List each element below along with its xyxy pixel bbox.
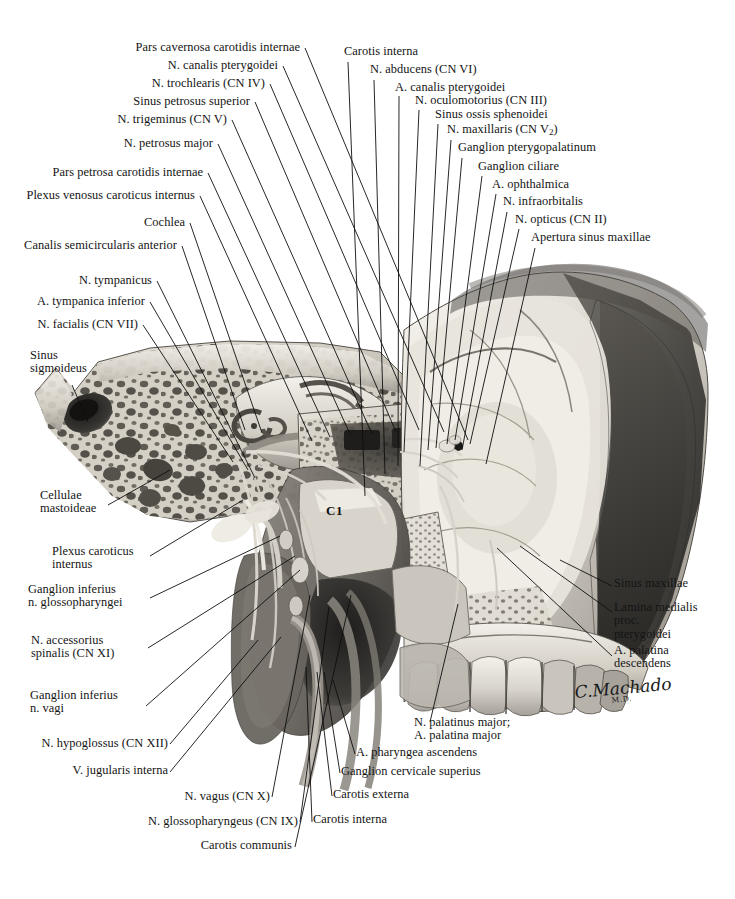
anatomy-label: N. canalis pterygoidei <box>168 59 278 72</box>
anatomy-label: Carotis interna <box>344 45 418 58</box>
anatomy-label-text: Sinus ossis sphenoidei <box>435 107 548 121</box>
anatomy-label-line: Ganglion inferius <box>28 583 123 596</box>
anatomy-label-line: Carotis externa <box>333 788 409 801</box>
anatomy-label: Sinus maxillae <box>614 577 688 590</box>
anatomy-label: Plexus caroticusinternus <box>52 545 134 572</box>
anatomy-label: Ganglion inferiusn. glossopharyngei <box>28 583 123 610</box>
anatomy-label-text: Plexus venosus caroticus internus <box>26 188 195 202</box>
anatomy-label: Cellulaemastoideae <box>40 489 96 516</box>
anatomy-label: Plexus venosus caroticus internus <box>26 189 195 202</box>
anatomy-label-text: N. glossopharyngeus (CN IX) <box>148 814 298 828</box>
anatomy-label: Lamina medialisproc.pterygoidei <box>614 601 698 641</box>
anatomy-label-text: N. opticus (CN II) <box>515 212 607 226</box>
anatomy-label: N. maxillaris (CN V2) <box>447 123 558 139</box>
anatomy-label: N. vagus (CN X) <box>185 790 270 803</box>
anatomy-label: N. oculomotorius (CN III) <box>415 94 547 107</box>
anatomy-label: N. facialis (CN VII) <box>37 318 138 331</box>
anatomy-label: Ganglion pterygopalatinum <box>458 141 596 154</box>
anatomy-label-line: Lamina medialis <box>614 601 698 614</box>
anatomy-label-text: Pars petrosa carotidis internae <box>52 165 203 179</box>
anatomy-label: Carotis interna <box>313 813 387 826</box>
anatomy-label-line: pterygoidei <box>614 628 698 641</box>
anatomy-label-text: N. trigeminus (CN V) <box>117 112 227 126</box>
anatomy-label-line: mastoideae <box>40 502 96 515</box>
anatomy-label-line: n. glossopharyngei <box>28 596 123 609</box>
anatomy-label-text: N. oculomotorius (CN III) <box>415 93 547 107</box>
anatomy-label: Canalis semicircularis anterior <box>24 239 177 252</box>
anatomy-label-text: N. petrosus major <box>124 136 213 150</box>
anatomy-label: N. accessoriusspinalis (CN XI) <box>31 634 114 661</box>
anatomy-label: Sinus petrosus superior <box>133 95 250 108</box>
anatomy-label-text: N. facialis (CN VII) <box>37 317 138 331</box>
anatomy-label-line: Ganglion cervicale superius <box>341 765 481 778</box>
anatomy-label-line: descendens <box>614 657 671 670</box>
anatomy-label-text: Sinus petrosus superior <box>133 94 250 108</box>
anatomy-label: Ganglion cervicale superius <box>341 765 481 778</box>
anatomy-label-line: proc. <box>614 614 698 627</box>
anatomy-label: Apertura sinus maxillae <box>531 231 651 244</box>
anatomy-label: N. tympanicus <box>79 274 152 287</box>
anatomy-label: N. petrosus major <box>124 137 213 150</box>
anatomy-label: A. tympanica inferior <box>37 295 145 308</box>
anatomy-label-line: A. palatina major <box>414 729 510 742</box>
anatomy-label: Sinus ossis sphenoidei <box>435 108 548 121</box>
anatomy-label-text: V. jugularis interna <box>73 763 168 777</box>
anatomy-label-line: Ganglion inferius <box>30 689 118 702</box>
anatomy-label-text: N. abducens (CN VI) <box>370 62 477 76</box>
anatomy-label-text: N. infraorbitalis <box>503 194 583 208</box>
anatomy-label-line: A. pharyngea ascendens <box>356 746 477 759</box>
anatomy-label: Pars cavernosa carotidis internae <box>136 41 300 54</box>
anatomy-label: Sinussigmoideus <box>30 349 87 376</box>
anatomy-label: N. trochlearis (CN IV) <box>152 77 265 90</box>
anatomy-label: Carotis communis <box>201 839 292 852</box>
anatomy-label: N. trigeminus (CN V) <box>117 113 227 126</box>
anatomy-label-text: Ganglion ciliare <box>478 159 559 173</box>
anatomy-label: Cochlea <box>144 216 185 229</box>
anatomy-label-line: N. palatinus major; <box>414 716 510 729</box>
anatomy-label-line: spinalis (CN XI) <box>31 647 114 660</box>
anatomy-label-text: A. ophthalmica <box>492 177 569 191</box>
anatomy-label-line: A. palatina <box>614 644 671 657</box>
anatomy-label-line: Sinus maxillae <box>614 577 688 590</box>
anatomy-label: N. opticus (CN II) <box>515 213 607 226</box>
anatomy-label: N. abducens (CN VI) <box>370 63 477 76</box>
anatomy-label-text: N. maxillaris (CN V <box>447 122 549 136</box>
anatomy-label-text: Carotis interna <box>344 44 418 58</box>
anatomy-label: N. palatinus major;A. palatina major <box>414 716 510 743</box>
anatomy-label: A. ophthalmica <box>492 178 569 191</box>
anatomy-label-text: N. vagus (CN X) <box>185 789 270 803</box>
anatomy-label-line: sigmoideus <box>30 362 87 375</box>
anatomy-label: Carotis externa <box>333 788 409 801</box>
anatomy-label-line: Cellulae <box>40 489 96 502</box>
anatomy-label-line: internus <box>52 558 134 571</box>
anatomy-label-text: Apertura sinus maxillae <box>531 230 651 244</box>
anatomy-label-text: A. canalis pterygoidei <box>395 80 505 94</box>
anatomy-label: N. glossopharyngeus (CN IX) <box>148 815 298 828</box>
anatomy-label-text: Pars cavernosa carotidis internae <box>136 40 300 54</box>
anatomy-label-line: Carotis interna <box>313 813 387 826</box>
anatomical-plate: Pars cavernosa carotidis internaeN. cana… <box>0 0 735 899</box>
anatomy-label: A. pharyngea ascendens <box>356 746 477 759</box>
anatomy-label-text: Cochlea <box>144 215 185 229</box>
anatomy-label: V. jugularis interna <box>73 764 168 777</box>
anatomy-label: Ganglion ciliare <box>478 160 559 173</box>
anatomy-label-text: N. tympanicus <box>79 273 152 287</box>
anatomy-label-text: A. tympanica inferior <box>37 294 145 308</box>
anatomy-label-text: Ganglion pterygopalatinum <box>458 140 596 154</box>
anatomy-label: Pars petrosa carotidis internae <box>52 166 203 179</box>
anatomy-label-text: Carotis communis <box>201 838 292 852</box>
anatomy-label: N. infraorbitalis <box>503 195 583 208</box>
anatomy-label-text: N. hypoglossus (CN XII) <box>42 736 168 750</box>
anatomy-label-line: Sinus <box>30 349 87 362</box>
anatomy-label-tail: ) <box>553 122 557 136</box>
anatomy-label-line: n. vagi <box>30 702 118 715</box>
anatomy-label-line: N. accessorius <box>31 634 114 647</box>
anatomy-label: N. hypoglossus (CN XII) <box>42 737 168 750</box>
anatomy-label-text: Canalis semicircularis anterior <box>24 238 177 252</box>
anatomy-label-line: Plexus caroticus <box>52 545 134 558</box>
anatomy-label-text: N. trochlearis (CN IV) <box>152 76 265 90</box>
anatomy-label: A. palatinadescendens <box>614 644 671 671</box>
vertebra-label-c1: C1 <box>326 503 343 519</box>
anatomy-label-text: N. canalis pterygoidei <box>168 58 278 72</box>
anatomy-label: Ganglion inferiusn. vagi <box>30 689 118 716</box>
